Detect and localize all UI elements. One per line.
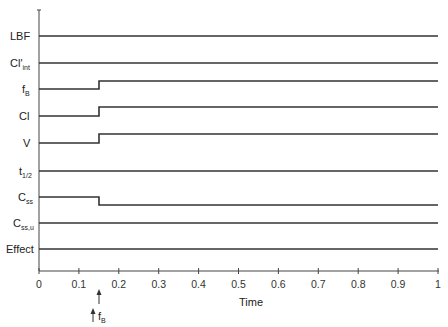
x-axis-label: Time: [239, 296, 263, 308]
label-css: Css: [18, 191, 33, 205]
line-css: [39, 197, 438, 205]
label-cl: Cl: [19, 110, 29, 122]
x-tick-label: 0.4: [191, 278, 206, 290]
chart: 00.10.20.30.40.50.60.70.80.91 Time LBF C…: [0, 0, 448, 327]
x-tick-label: 0.6: [271, 278, 286, 290]
label-v: V: [23, 137, 31, 149]
event-label: fB: [98, 310, 106, 324]
label-lbf: LBF: [10, 30, 30, 42]
series-labels: LBF Cl'int fB Cl V t1/2 Css Css,u Effect: [6, 30, 34, 255]
x-tick-label: 0.2: [111, 278, 126, 290]
x-tick-label: 0.7: [311, 278, 326, 290]
x-tick-label: 0.9: [391, 278, 406, 290]
x-tick-label: 0: [36, 278, 42, 290]
x-tick-label: 0.1: [72, 278, 87, 290]
label-fb: fB: [22, 83, 30, 97]
x-tick-label: 0.3: [151, 278, 166, 290]
label-clint: Cl'int: [10, 57, 30, 71]
x-tick-label: 0.5: [231, 278, 246, 290]
label-effect: Effect: [6, 243, 34, 255]
x-tick-label: 1: [435, 278, 441, 290]
series-lines: [39, 36, 438, 249]
line-cl: [39, 107, 438, 116]
line-fb: [39, 81, 438, 89]
label-cssu: Css,u: [13, 217, 34, 231]
x-tick-label: 0.8: [351, 278, 366, 290]
line-v: [39, 134, 438, 143]
label-thalf: t1/2: [19, 165, 32, 179]
